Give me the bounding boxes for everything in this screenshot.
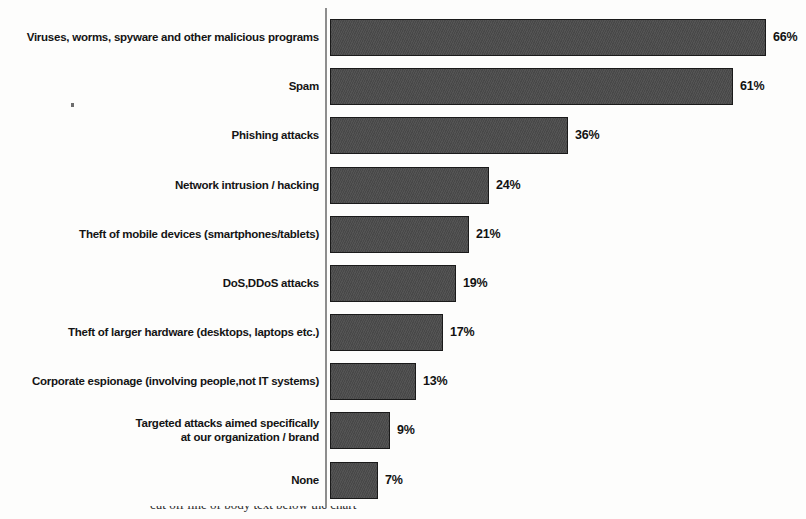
- bar-category-label: Spam: [9, 79, 319, 93]
- bar-value-label: 21%: [476, 227, 500, 241]
- bar-rect[interactable]: [330, 363, 416, 400]
- bar-container: 24%: [330, 166, 520, 204]
- bar-category-label: None: [9, 473, 319, 487]
- bar-rect[interactable]: [330, 265, 456, 302]
- bar-category-label: Viruses, worms, spyware and other malici…: [9, 30, 319, 44]
- cut-off-footnote-text: cut off line of body text below the char…: [150, 506, 356, 513]
- bar-rect[interactable]: [330, 167, 489, 204]
- bar-category-label: Targeted attacks aimed specifically at o…: [9, 416, 319, 444]
- bar-category-label: Theft of larger hardware (desktops, lapt…: [9, 325, 319, 339]
- bar-row: Theft of mobile devices (smartphones/tab…: [0, 215, 806, 253]
- bar-chart-plot-area: Viruses, worms, spyware and other malici…: [0, 0, 806, 519]
- bar-container: 66%: [330, 18, 797, 56]
- bar-rect[interactable]: [330, 19, 766, 56]
- bar-rect[interactable]: [330, 216, 469, 253]
- bar-row: Phishing attacks 36%: [0, 116, 806, 154]
- bar-value-label: 19%: [463, 276, 487, 290]
- bar-container: 9%: [330, 411, 415, 449]
- bar-value-label: 7%: [385, 473, 403, 487]
- bar-container: 17%: [330, 313, 474, 351]
- bar-value-label: 66%: [773, 30, 797, 44]
- bar-rect[interactable]: [330, 68, 733, 105]
- bar-container: 36%: [330, 116, 599, 154]
- bar-category-label: Theft of mobile devices (smartphones/tab…: [9, 227, 319, 241]
- bar-value-label: 17%: [450, 325, 474, 339]
- bar-row: Theft of larger hardware (desktops, lapt…: [0, 313, 806, 351]
- cut-off-footnote: cut off line of body text below the char…: [0, 506, 806, 519]
- bar-category-label: Phishing attacks: [9, 128, 319, 142]
- bar-value-label: 13%: [423, 374, 447, 388]
- bar-container: 13%: [330, 362, 447, 400]
- bar-row: Corporate espionage (involving people,no…: [0, 362, 806, 400]
- bar-row: Targeted attacks aimed specifically at o…: [0, 411, 806, 449]
- bar-row: Spam 61%: [0, 67, 806, 105]
- bar-value-label: 36%: [575, 128, 599, 142]
- bar-category-label: Corporate espionage (involving people,no…: [9, 374, 319, 388]
- bar-container: 7%: [330, 461, 403, 499]
- bar-rect[interactable]: [330, 117, 568, 154]
- bar-category-label: Network intrusion / hacking: [9, 178, 319, 192]
- bar-category-label: DoS,DDoS attacks: [9, 276, 319, 290]
- bar-rect[interactable]: [330, 314, 443, 351]
- bar-row: None 7%: [0, 461, 806, 499]
- bar-container: 19%: [330, 264, 487, 302]
- bar-container: 21%: [330, 215, 500, 253]
- bar-rect[interactable]: [330, 462, 378, 499]
- bar-row: DoS,DDoS attacks 19%: [0, 264, 806, 302]
- bar-container: 61%: [330, 67, 764, 105]
- bar-row: Network intrusion / hacking 24%: [0, 166, 806, 204]
- bar-rect[interactable]: [330, 412, 390, 449]
- chart-page: Viruses, worms, spyware and other malici…: [0, 0, 806, 519]
- bar-value-label: 9%: [397, 423, 415, 437]
- bar-row: Viruses, worms, spyware and other malici…: [0, 18, 806, 56]
- bar-value-label: 24%: [496, 178, 520, 192]
- bar-value-label: 61%: [740, 79, 764, 93]
